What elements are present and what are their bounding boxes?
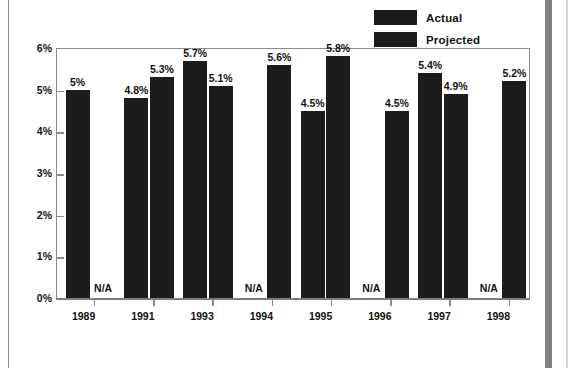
legend-swatch-actual [374,10,417,25]
na-label: N/A [362,282,380,294]
y-axis-tick-label: 4% [37,125,52,137]
bar-slot-1989-actual: 5% [66,48,90,298]
bar-1989-actual: 5% [66,90,90,298]
bar-group-1989: 5%N/A [60,48,119,298]
bar-slot-1996-actual: N/A [359,48,383,298]
bar-value-label: 5.1% [209,72,233,84]
bar-1997-actual: 5.4% [418,73,442,298]
x-axis-label-1996: 1996 [368,310,391,322]
y-axis-tick-label: 6% [37,42,52,54]
x-axis-tick [449,300,451,306]
bar-group-1993: 5.7%5.1% [178,48,237,298]
page-right-margin-bar [545,0,552,368]
bar-group-1991: 4.8%5.3% [119,48,178,298]
bar-1993-projected: 5.1% [209,86,233,299]
bar-1991-projected: 5.3% [150,77,174,298]
x-axis-labels: 19891991199319941995199619971998 [56,310,530,330]
bar-value-label: 5.2% [502,67,526,79]
bar-slot-1991-actual: 4.8% [124,48,148,298]
y-axis-tick-label: 0% [37,292,52,304]
bar-1994-projected: 5.6% [267,65,291,298]
bar-slot-1993-actual: 5.7% [183,48,207,298]
bar-groups: 5%N/A4.8%5.3%5.7%5.1%N/A5.6%4.5%5.8%N/A4… [56,48,530,298]
bar-group-1998: N/A5.2% [471,48,530,298]
bar-slot-1991-projected: 5.3% [150,48,174,298]
bar-group-1994: N/A5.6% [236,48,295,298]
bar-chart: 0%1%2%3%4%5%6% 5%N/A4.8%5.3%5.7%5.1%N/A5… [16,44,536,356]
bar-value-label: 4.8% [124,84,148,96]
bar-group-1996: N/A4.5% [354,48,413,298]
y-axis-tick-label: 3% [37,167,52,179]
bar-group-1995: 4.5%5.8% [295,48,354,298]
legend-item-actual: Actual [374,10,480,25]
bar-group-1997: 5.4%4.9% [413,48,472,298]
bar-1995-actual: 4.5% [301,111,325,299]
x-axis-tick [272,300,274,306]
bar-value-label: 4.5% [301,97,325,109]
x-axis-label-1998: 1998 [487,310,510,322]
bar-slot-1989-projected: N/A [91,48,115,298]
bar-1995-projected: 5.8% [326,56,350,298]
x-axis-label-1991: 1991 [131,310,154,322]
bar-slot-1995-actual: 4.5% [301,48,325,298]
y-axis-tick-label: 5% [37,84,52,96]
bar-1997-projected: 4.9% [444,94,468,298]
x-axis-label-1995: 1995 [309,310,332,322]
bar-value-label: 5.8% [326,42,350,54]
bar-value-label: 5.3% [150,63,174,75]
bar-slot-1998-actual: N/A [477,48,501,298]
bar-1998-projected: 5.2% [502,81,526,298]
x-axis-label-1993: 1993 [190,310,213,322]
x-axis-label-1989: 1989 [72,310,95,322]
x-axis-tick [509,300,511,306]
bar-value-label: 5.6% [267,51,291,63]
y-axis-tick-label: 1% [37,250,52,262]
bar-value-label: 5% [70,76,85,88]
x-axis-tick [94,300,96,306]
bar-slot-1996-projected: 4.5% [385,48,409,298]
bar-slot-1998-projected: 5.2% [502,48,526,298]
na-label: N/A [94,282,112,294]
bar-slot-1994-projected: 5.6% [267,48,291,298]
bar-1996-projected: 4.5% [385,111,409,299]
bar-value-label: 5.7% [183,47,207,59]
chart-legend: ActualProjected [374,10,480,47]
bar-value-label: 4.5% [385,97,409,109]
bar-slot-1993-projected: 5.1% [209,48,233,298]
x-axis-label-1997: 1997 [427,310,450,322]
x-axis-label-1994: 1994 [250,310,273,322]
y-axis-labels: 0%1%2%3%4%5%6% [16,44,52,302]
x-axis-tick [212,300,214,306]
x-axis-tick [331,300,333,306]
bar-slot-1994-actual: N/A [242,48,266,298]
bar-value-label: 5.4% [418,59,442,71]
y-axis-tick-label: 2% [37,209,52,221]
x-axis-tick [153,300,155,306]
bar-1993-actual: 5.7% [183,61,207,299]
bar-slot-1997-projected: 4.9% [444,48,468,298]
na-label: N/A [480,282,498,294]
page-left-rule [8,0,9,368]
x-axis-ticks [56,300,530,306]
x-axis-tick [390,300,392,306]
bar-slot-1995-projected: 5.8% [326,48,350,298]
legend-label: Actual [426,12,462,24]
bar-slot-1997-actual: 5.4% [418,48,442,298]
bar-value-label: 4.9% [444,80,468,92]
bar-1991-actual: 4.8% [124,98,148,298]
na-label: N/A [245,282,263,294]
